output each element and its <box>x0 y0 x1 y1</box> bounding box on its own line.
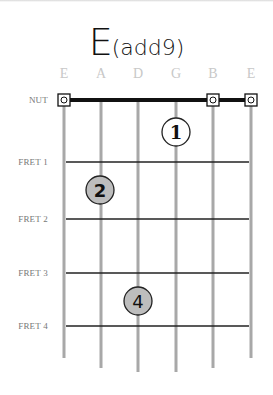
fretboard: 1 2 4 <box>0 0 273 395</box>
open-string-marker-high-e <box>245 94 257 106</box>
finger-4-number: 4 <box>132 291 143 312</box>
finger-2-number: 2 <box>94 180 107 201</box>
open-string-marker-low-e <box>58 94 70 106</box>
finger-1-number: 1 <box>170 122 183 143</box>
open-string-marker-b <box>207 94 219 106</box>
